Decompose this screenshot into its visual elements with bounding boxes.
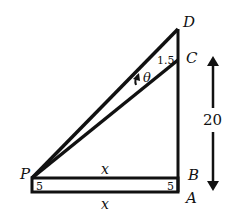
label-theta: θ — [143, 70, 151, 85]
label-x-bottom: x — [101, 196, 109, 212]
label-height-20: 20 — [203, 111, 222, 129]
label-P: P — [19, 165, 31, 183]
label-B: B — [187, 166, 199, 184]
label-A: A — [184, 189, 197, 207]
label-5-right: 5 — [167, 180, 174, 193]
arrow-up-icon — [207, 56, 219, 66]
geometry-diagram: D C B A P x x θ 1.5 20 5 5 — [0, 0, 240, 221]
base-strip — [32, 178, 178, 192]
label-D: D — [182, 13, 195, 31]
diagram-canvas: D C B A P x x θ 1.5 20 5 5 — [0, 0, 240, 221]
arrow-down-icon — [207, 181, 219, 191]
label-5-left: 5 — [36, 180, 43, 193]
label-x-top: x — [101, 161, 109, 177]
label-C: C — [186, 49, 198, 67]
label-1-5: 1.5 — [157, 54, 175, 67]
line-PD — [32, 29, 178, 178]
